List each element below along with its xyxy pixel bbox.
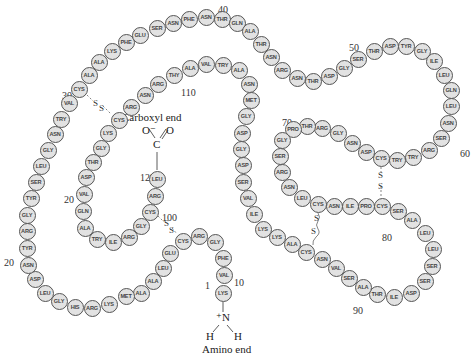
- residue-ser: SER: [417, 273, 434, 290]
- residue-arg: ARG: [123, 99, 140, 116]
- disulfide-s: S: [93, 98, 98, 108]
- residue-arg: ARG: [84, 300, 101, 317]
- residue-asn: ASN: [326, 198, 343, 215]
- residue-gly: GLY: [330, 125, 347, 142]
- residue-ala: ALA: [404, 212, 421, 229]
- residue-ser: SER: [424, 258, 441, 275]
- residue-asp: ASP: [235, 157, 252, 174]
- residue-phe: PHE: [181, 11, 198, 28]
- position-number: 20: [64, 194, 74, 205]
- residue-ile: ILE: [246, 206, 263, 223]
- residue-ile: ILE: [105, 234, 122, 251]
- residue-ser: SER: [350, 51, 367, 68]
- residue-gly: GLY: [274, 132, 291, 149]
- residue-ser: SER: [272, 148, 289, 165]
- residue-asp: ASP: [382, 38, 399, 55]
- residue-ala: ALA: [133, 285, 150, 302]
- residue-asn: ASN: [289, 70, 306, 87]
- amino-h1: H: [206, 330, 214, 342]
- disulfide-s: S: [311, 226, 316, 236]
- residue-arg: ARG: [19, 223, 36, 240]
- residue-glu: GLU: [132, 27, 149, 44]
- residue-ala: ALA: [284, 236, 301, 253]
- carboxyl-c: C: [153, 138, 160, 150]
- carboxyl-o: O: [166, 124, 174, 136]
- residue-leu: LEU: [425, 241, 442, 258]
- disulfide-s: S: [99, 103, 104, 113]
- residue-tyr: TYR: [398, 38, 415, 55]
- residue-asp: ASP: [403, 285, 420, 302]
- residue-try: TRY: [89, 231, 106, 248]
- residue-lys: LYS: [101, 296, 118, 313]
- residue-arg: ARG: [421, 142, 438, 159]
- residue-thr: THR: [305, 73, 322, 90]
- residue-met: MET: [118, 288, 135, 305]
- position-number: 60: [460, 148, 470, 159]
- amino-h2: H: [234, 330, 242, 342]
- residue-leu: LEU: [417, 225, 434, 242]
- residue-leu: LEU: [436, 67, 453, 84]
- residue-thr: THR: [214, 11, 231, 28]
- residue-gln: GLN: [443, 82, 460, 99]
- residue-pro: PRO: [358, 198, 375, 215]
- residue-his: HIS: [67, 299, 84, 316]
- residue-asp: ASP: [234, 125, 251, 142]
- residue-try: TRY: [215, 57, 232, 74]
- residue-ser: SER: [235, 174, 252, 191]
- residue-leu: LEU: [33, 158, 50, 175]
- residue-thr: THR: [85, 154, 102, 171]
- residue-cys: CYS: [374, 198, 391, 215]
- position-number: 20: [4, 257, 14, 268]
- residue-asn: ASN: [198, 9, 215, 26]
- residue-cys: CYS: [175, 233, 192, 250]
- position-number: 80: [382, 232, 392, 243]
- position-number: 1: [205, 280, 210, 291]
- lysozyme-diagram: S S S S S S S S Carboxyl end O⁻ O C ⁺N H…: [0, 0, 471, 357]
- residue-cys: CYS: [310, 196, 327, 213]
- residue-asn: ASN: [165, 15, 182, 32]
- residue-try: TRY: [53, 111, 70, 128]
- residue-tyr: TYR: [23, 190, 40, 207]
- residue-cys: CYS: [142, 204, 159, 221]
- amino-n: ⁺N: [216, 311, 230, 324]
- disulfide-s: S: [314, 213, 319, 223]
- residue-gly: GLY: [40, 142, 57, 159]
- residue-ile: ILE: [342, 198, 359, 215]
- residue-arg: ARG: [274, 62, 291, 79]
- residue-arg: ARG: [314, 120, 331, 137]
- residue-asn: ASN: [137, 87, 154, 104]
- residue-cys: CYS: [373, 150, 390, 167]
- residue-ile: ILE: [386, 289, 403, 306]
- residue-val: VAL: [198, 56, 215, 73]
- residue-asn: ASN: [314, 251, 331, 268]
- residue-arg: ARG: [147, 188, 164, 205]
- carboxyl-o-minus: O⁻: [142, 124, 156, 137]
- residue-lys: LYS: [100, 125, 117, 142]
- position-number: 110: [181, 87, 196, 98]
- disulfide-s: S: [378, 170, 383, 180]
- residue-asn: ASN: [440, 115, 457, 132]
- residue-ala: ALA: [231, 62, 248, 79]
- residue-ser: SER: [28, 174, 45, 191]
- residue-leu: LEU: [294, 190, 311, 207]
- residue-try: TRY: [389, 152, 406, 169]
- residue-asn: ASN: [47, 126, 64, 143]
- residue-leu: LEU: [443, 98, 460, 115]
- disulfide-s: S: [169, 225, 174, 235]
- residue-gln: GLN: [75, 203, 92, 220]
- residue-ser: SER: [149, 20, 166, 37]
- residue-try: TRY: [405, 149, 422, 166]
- residue-met: MET: [243, 92, 260, 109]
- position-number: 100: [162, 212, 177, 223]
- amino-end-label: Amino end: [202, 343, 251, 355]
- residue-lys: LYS: [215, 285, 232, 302]
- residue-val: VAL: [240, 190, 257, 207]
- residue-thr: THR: [366, 43, 383, 60]
- residue-val: VAL: [76, 186, 93, 203]
- residue-arg: ARG: [191, 228, 208, 245]
- residue-gly: GLY: [238, 108, 255, 125]
- residue-thy: THY: [166, 67, 183, 84]
- residue-gly: GLY: [19, 207, 36, 224]
- residue-ala: ALA: [182, 60, 199, 77]
- position-number: 90: [353, 305, 363, 316]
